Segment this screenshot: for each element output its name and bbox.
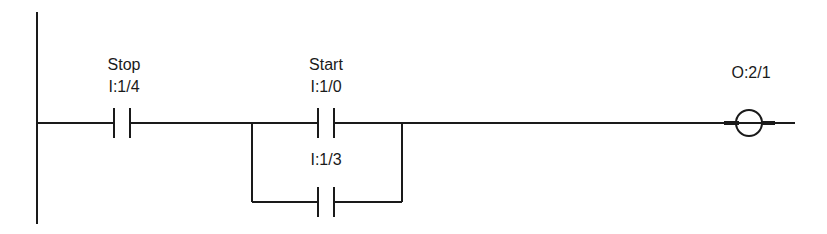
output-coil-address: O:2/1 (731, 65, 770, 81)
start-contact-icon (318, 108, 334, 138)
start-contact-address: I:1/0 (310, 79, 341, 95)
stop-contact-icon (114, 108, 130, 138)
start-contact-name: Start (309, 57, 343, 73)
stop-contact-address: I:1/4 (108, 79, 139, 95)
seal-in-contact-icon (318, 187, 334, 217)
stop-contact-name: Stop (108, 57, 141, 73)
seal-in-contact-address: I:1/3 (310, 152, 341, 168)
ladder-diagram (0, 0, 827, 234)
